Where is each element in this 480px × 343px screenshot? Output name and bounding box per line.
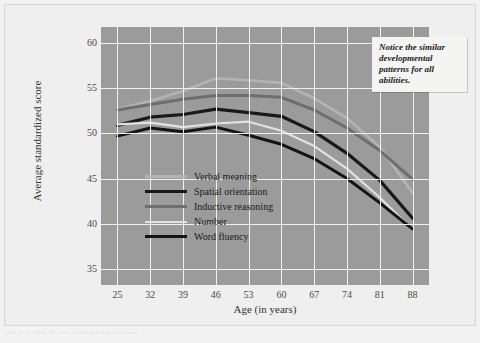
x-tick-label: 81	[365, 289, 395, 301]
legend-color-swatch	[145, 175, 187, 178]
gridline-horizontal	[101, 133, 429, 134]
chart-card: Verbal meaningSpatial orientationInducti…	[4, 4, 476, 326]
x-tick-label: 39	[168, 289, 198, 301]
y-tick-label: 40	[63, 219, 97, 229]
legend-item-label: Verbal meaning	[194, 169, 257, 184]
x-tick-label: 74	[332, 289, 362, 301]
legend-color-swatch	[145, 221, 187, 223]
figure-container: Verbal meaningSpatial orientationInducti…	[0, 0, 480, 343]
y-tick-label: 50	[63, 128, 97, 138]
x-axis-label: Age (in years)	[101, 303, 429, 315]
y-tick-label: 45	[63, 174, 97, 184]
y-tick-label: 55	[63, 83, 97, 93]
gridline-horizontal	[101, 269, 429, 270]
x-tick-label: 32	[135, 289, 165, 301]
gridline-vertical	[347, 27, 348, 285]
annotation-callout: Notice the similar developmental pattern…	[372, 37, 467, 92]
gridline-vertical	[117, 27, 118, 285]
y-tick-label: 35	[63, 264, 97, 274]
x-tick-label: 67	[299, 289, 329, 301]
x-tick-label: 53	[234, 289, 264, 301]
y-tick-label: 60	[63, 38, 97, 48]
figure-caption: Schaie, K. W. (1994). The course of adul…	[4, 330, 474, 336]
x-tick-label: 60	[266, 289, 296, 301]
legend-color-swatch	[145, 235, 187, 238]
legend-item-label: Spatial orientation	[194, 184, 268, 199]
x-tick-label: 46	[201, 289, 231, 301]
gridline-vertical	[314, 27, 315, 285]
chart-legend: Verbal meaningSpatial orientationInducti…	[145, 169, 273, 244]
legend-item: Verbal meaning	[145, 169, 273, 184]
legend-item-label: Inductive reasoning	[194, 199, 273, 214]
gridline-vertical	[281, 27, 282, 285]
y-axis-label: Average standardized score	[31, 31, 43, 251]
gridline-vertical	[183, 27, 184, 285]
x-tick-label: 88	[398, 289, 428, 301]
legend-color-swatch	[145, 190, 187, 193]
legend-item: Spatial orientation	[145, 184, 273, 199]
legend-color-swatch	[145, 205, 187, 208]
x-tick-label: 25	[102, 289, 132, 301]
gridline-vertical	[216, 27, 217, 285]
y-axis-ticks: 354045505560	[57, 27, 97, 285]
legend-item: Number	[145, 214, 273, 229]
legend-item-label: Word fluency	[194, 229, 248, 244]
legend-item-label: Number	[194, 214, 227, 229]
x-axis-ticks: 25323946536067748188	[101, 289, 429, 303]
legend-item: Word fluency	[145, 229, 273, 244]
gridline-vertical	[249, 27, 250, 285]
gridline-vertical	[150, 27, 151, 285]
legend-item: Inductive reasoning	[145, 199, 273, 214]
